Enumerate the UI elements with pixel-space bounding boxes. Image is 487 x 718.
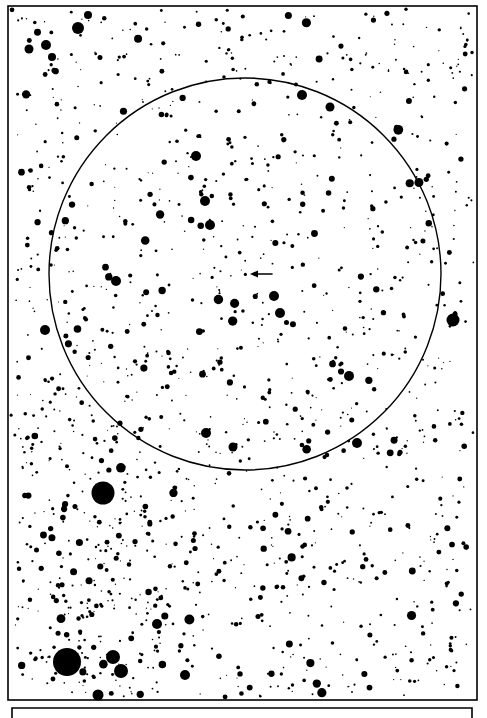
star-marker — [225, 431, 227, 433]
star-marker — [17, 269, 19, 271]
star-marker — [88, 352, 90, 354]
star-marker — [75, 61, 76, 62]
star-marker — [29, 300, 31, 302]
star-marker — [395, 667, 396, 668]
star-marker — [368, 218, 369, 219]
star-marker — [132, 677, 134, 679]
star-marker — [325, 429, 330, 434]
star-marker — [424, 230, 425, 231]
star-marker — [83, 307, 86, 310]
star-marker — [86, 577, 93, 584]
star-marker — [333, 570, 336, 573]
star-marker — [94, 604, 99, 609]
star-marker — [213, 267, 215, 269]
star-marker — [194, 485, 196, 487]
star-marker — [398, 450, 403, 455]
star-marker — [218, 292, 220, 294]
star-marker — [455, 661, 457, 663]
star-marker — [313, 530, 315, 532]
star-marker — [297, 90, 307, 100]
star-marker — [129, 560, 131, 562]
star-marker — [21, 17, 23, 19]
star-marker — [145, 354, 149, 358]
star-marker — [394, 39, 396, 41]
star-marker — [315, 419, 316, 420]
star-marker — [169, 371, 174, 376]
star-marker — [254, 585, 256, 587]
star-marker — [147, 602, 149, 604]
star-marker — [129, 29, 131, 31]
star-marker — [18, 428, 20, 430]
star-marker — [158, 596, 163, 601]
star-marker — [290, 321, 296, 327]
star-marker — [182, 632, 185, 635]
star-marker — [219, 270, 221, 272]
star-marker — [436, 533, 439, 536]
star-marker — [217, 546, 220, 549]
star-marker — [128, 635, 134, 641]
star-marker — [286, 423, 289, 426]
star-marker — [16, 647, 19, 650]
star-marker — [97, 544, 99, 546]
star-marker — [377, 368, 378, 369]
star-marker — [274, 562, 275, 563]
star-marker — [269, 625, 271, 627]
star-marker — [111, 276, 121, 286]
star-marker — [147, 417, 151, 421]
star-marker — [334, 121, 339, 126]
star-marker — [61, 99, 62, 100]
star-marker — [130, 496, 132, 498]
star-marker — [288, 687, 290, 689]
star-marker — [93, 286, 94, 287]
star-marker — [164, 90, 166, 92]
star-marker — [217, 359, 222, 364]
star-marker — [347, 686, 349, 688]
star-marker — [395, 669, 399, 673]
star-marker — [54, 598, 59, 603]
star-marker — [236, 70, 238, 72]
star-marker — [301, 290, 303, 292]
star-marker — [242, 424, 243, 425]
star-marker — [467, 12, 470, 15]
star-marker — [60, 515, 66, 521]
star-marker — [153, 587, 158, 592]
star-marker — [91, 456, 94, 459]
star-marker — [210, 194, 215, 199]
star-marker — [112, 332, 114, 334]
star-marker — [64, 335, 67, 338]
star-marker — [416, 135, 419, 138]
star-marker — [195, 582, 200, 587]
star-marker — [34, 656, 38, 660]
star-marker — [406, 485, 409, 488]
star-marker — [251, 236, 253, 238]
star-marker — [68, 607, 70, 609]
star-marker — [376, 451, 379, 454]
star-marker — [39, 649, 41, 651]
star-marker — [338, 368, 344, 374]
star-marker — [49, 581, 51, 583]
star-marker — [202, 534, 204, 536]
star-marker — [113, 356, 115, 358]
star-marker — [116, 463, 126, 473]
star-marker — [181, 215, 183, 217]
star-marker — [152, 202, 156, 206]
star-marker — [50, 63, 53, 66]
star-marker — [306, 670, 307, 671]
star-marker — [15, 624, 16, 625]
star-marker — [75, 236, 78, 239]
star-marker — [73, 420, 75, 422]
star-marker — [161, 355, 162, 356]
star-marker — [208, 614, 210, 616]
star-marker — [86, 615, 89, 618]
star-marker — [245, 178, 248, 181]
star-marker — [378, 511, 381, 514]
star-marker — [352, 333, 354, 335]
star-marker — [185, 395, 186, 396]
star-marker — [59, 373, 61, 375]
star-marker — [276, 154, 281, 159]
star-marker — [369, 526, 370, 527]
star-marker — [48, 176, 51, 179]
star-marker — [381, 289, 383, 291]
star-marker — [26, 109, 28, 111]
star-marker — [251, 101, 256, 106]
